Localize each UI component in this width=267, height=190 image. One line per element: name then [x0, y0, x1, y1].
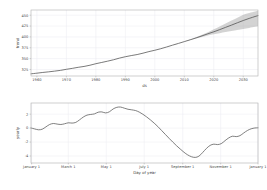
x-tick-label: November 1: [210, 165, 232, 169]
y-axis-label: trend: [15, 37, 20, 48]
x-tick-label: January 1: [248, 165, 266, 169]
yearly-component-panel: -4-202January 1March 1May 1July 1Septemb…: [0, 95, 267, 190]
x-tick-label: July 1: [138, 165, 149, 169]
y-tick-label: 400: [22, 35, 30, 39]
x-tick-label: 1960: [32, 78, 42, 82]
x-tick-label: 1970: [62, 78, 72, 82]
x-tick-label: 2030: [239, 78, 249, 82]
trend-chart: 3253503754004254501960197019801990200020…: [0, 0, 267, 95]
x-tick-label: 2010: [180, 78, 190, 82]
x-tick-label: September 1: [171, 165, 194, 169]
prophet-components-figure: 3253503754004254501960197019801990200020…: [0, 0, 267, 190]
y-tick-label: 0: [26, 126, 29, 130]
y-tick-label: 425: [22, 24, 29, 28]
x-tick-label: 2000: [150, 78, 160, 82]
y-tick-label: 375: [22, 46, 29, 50]
trend-component-panel: 3253503754004254501960197019801990200020…: [0, 0, 267, 95]
plot-frame: [31, 10, 258, 76]
y-tick-label: 350: [22, 57, 30, 61]
yearly-seasonality-line: [31, 107, 258, 157]
y-axis-label: yearly: [15, 126, 20, 139]
x-tick-label: 1990: [121, 78, 131, 82]
x-axis-label: ds: [142, 83, 147, 88]
y-tick-label: 450: [22, 14, 30, 18]
x-axis-label: Day of year: [133, 170, 156, 175]
x-tick-label: May 1: [101, 165, 112, 169]
plot-frame: [31, 103, 258, 163]
y-tick-label: 325: [22, 68, 29, 72]
y-tick-label: 2: [26, 113, 28, 117]
uncertainty-band: [31, 11, 258, 74]
x-tick-label: March 1: [61, 165, 75, 169]
yearly-seasonality-chart: -4-202January 1March 1May 1July 1Septemb…: [0, 95, 267, 190]
x-tick-label: 2020: [209, 78, 219, 82]
x-tick-label: 1980: [91, 78, 101, 82]
y-tick-label: -2: [25, 140, 29, 144]
y-tick-label: -4: [25, 154, 29, 158]
x-tick-label: January 1: [22, 165, 40, 169]
